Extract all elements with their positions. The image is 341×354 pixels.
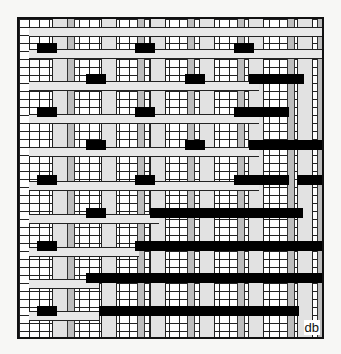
black-weft-bar xyxy=(135,241,322,251)
warp-strip xyxy=(101,19,117,337)
black-weft-bar xyxy=(86,140,106,150)
black-weft-bar xyxy=(37,306,57,316)
weft-strip xyxy=(29,81,259,91)
weft-strip xyxy=(29,147,259,157)
black-weft-bar xyxy=(135,175,155,185)
dotted-warp xyxy=(187,19,195,337)
weave-pattern-frame: db xyxy=(17,17,324,339)
black-weft-bar xyxy=(249,140,322,150)
weft-strip xyxy=(29,49,324,59)
weft-strip xyxy=(29,27,324,37)
black-weft-bar xyxy=(37,175,57,185)
black-weft-bar xyxy=(86,208,106,218)
warp-strip xyxy=(199,19,215,337)
black-weft-bar xyxy=(297,175,322,185)
black-weft-bar xyxy=(86,74,106,84)
black-weft-bar xyxy=(86,273,322,283)
black-weft-bar xyxy=(37,241,57,251)
signature: db xyxy=(304,320,320,335)
black-weft-bar xyxy=(234,107,289,117)
black-weft-bar xyxy=(234,43,254,53)
black-weft-bar xyxy=(135,43,155,53)
black-weft-bar xyxy=(37,107,57,117)
black-weft-bar xyxy=(234,175,289,185)
black-weft-bar xyxy=(185,140,205,150)
black-weft-bar xyxy=(37,43,57,53)
black-weft-bar xyxy=(249,74,304,84)
black-weft-bar xyxy=(185,74,205,84)
black-weft-bar xyxy=(150,208,303,218)
black-weft-bar xyxy=(99,306,299,316)
dotted-warp xyxy=(67,19,75,337)
black-weft-bar xyxy=(135,107,155,117)
